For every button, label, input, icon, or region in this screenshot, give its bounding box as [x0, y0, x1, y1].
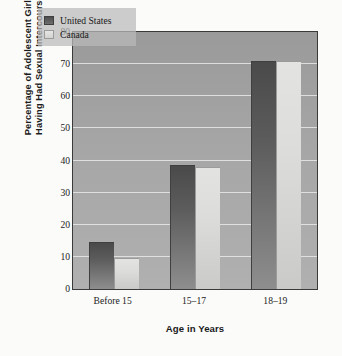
- plot-area: [72, 31, 318, 290]
- legend-swatch-united-states-icon: [44, 16, 54, 25]
- chart-figure: Percentage of Adolescent Girls Having Ha…: [0, 0, 342, 356]
- legend-item-united-states: United States: [44, 13, 129, 27]
- x-axis-title: Age in Years: [72, 323, 318, 334]
- legend-label-united-states: United States: [60, 15, 111, 26]
- bar-canada-group-3: [276, 61, 301, 289]
- legend-item-canada: Canada: [44, 27, 129, 41]
- y-axis-tick-label: 10: [46, 250, 70, 261]
- bar-united-states-group-2: [170, 165, 195, 289]
- y-axis-tick-label: 60: [46, 90, 70, 101]
- bar-canada-group-2: [195, 167, 220, 289]
- legend-label-canada: Canada: [60, 29, 89, 40]
- y-axis-tick-label: 20: [46, 218, 70, 229]
- y-axis-tick-label: 70: [46, 58, 70, 69]
- y-axis-tick-label: 50: [46, 122, 70, 133]
- x-axis-tick-label: Before 15: [94, 295, 132, 306]
- x-axis-tick-label: 18–19: [263, 295, 287, 306]
- y-axis-tick-label: 30: [46, 186, 70, 197]
- bar-united-states-group-3: [251, 61, 276, 289]
- x-axis-tick-labels: Before 1515–1718–19: [72, 295, 318, 311]
- y-axis-tick-label: 0: [46, 283, 70, 294]
- bar-united-states-group-1: [89, 242, 114, 289]
- x-axis-tick-label: 15–17: [182, 295, 206, 306]
- bar-canada-group-1: [114, 258, 139, 289]
- chart-legend: United States Canada: [38, 8, 136, 46]
- legend-swatch-canada-icon: [44, 30, 54, 39]
- y-axis-tick-label: 40: [46, 154, 70, 165]
- y-axis-title-line-1: Percentage of Adolescent Girls: [23, 0, 34, 135]
- y-axis-tick-labels: 01020304050607080: [46, 31, 70, 290]
